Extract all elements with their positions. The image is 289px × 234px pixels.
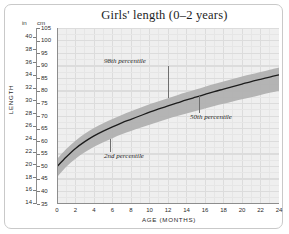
y-tick-inches: 16 <box>18 186 32 192</box>
growth-chart-page: Girls' length (0–2 years) in cm LENGTH A… <box>0 0 289 234</box>
y-tickmark-inches <box>33 139 36 140</box>
y-tick-cm: 105 <box>41 25 55 31</box>
y-tick-cm: 80 <box>41 87 55 93</box>
y-tickmark-inches <box>33 37 36 38</box>
y-tickmark-inches <box>33 88 36 89</box>
y-tickmark-inches <box>33 49 36 50</box>
y-tick-inches: 18 <box>18 174 32 180</box>
x-tick: 0 <box>49 207 65 213</box>
y-tickmark-cm <box>37 141 40 142</box>
y-tickmark-cm <box>37 53 40 54</box>
y-tick-cm: 95 <box>41 50 55 56</box>
y-tickmark-cm <box>37 116 40 117</box>
y-tick-cm: 70 <box>41 113 55 119</box>
y-tick-cm: 45 <box>41 175 55 181</box>
x-tick: 14 <box>179 207 195 213</box>
y-tickmark-inches <box>33 75 36 76</box>
y-tick-cm: 60 <box>41 138 55 144</box>
y-tickmark-cm <box>37 129 40 130</box>
y-tick-cm: 90 <box>41 62 55 68</box>
y-tickmark-inches <box>33 203 36 204</box>
y-tick-cm: 65 <box>41 125 55 131</box>
y-tickmark-cm <box>37 28 40 29</box>
y-tickmark-cm <box>37 78 40 79</box>
y-axis-title: LENGTH <box>7 72 14 128</box>
y-tickmark-inches <box>33 100 36 101</box>
plot-area <box>57 28 279 204</box>
y-tickmark-inches <box>33 113 36 114</box>
y-tickmark-cm <box>37 179 40 180</box>
annotation-2nd-percentile: 2nd percentile <box>104 152 144 160</box>
y-tickmark-cm <box>37 204 40 205</box>
y-tickmark-cm <box>37 154 40 155</box>
y-tick-cm: 40 <box>41 188 55 194</box>
y-tick-inches: 22 <box>18 148 32 154</box>
x-tick: 8 <box>123 207 139 213</box>
y-tick-inches: 30 <box>18 97 32 103</box>
y-tick-inches: 34 <box>18 71 32 77</box>
leader-line-50th <box>199 96 200 113</box>
x-axis-title: AGE (MONTHS) <box>58 216 280 223</box>
y-tickmark-inches <box>33 152 36 153</box>
y-tickmark-cm <box>37 66 40 67</box>
y-tick-inches: 26 <box>18 122 32 128</box>
y-tick-inches: 38 <box>18 46 32 52</box>
y-tickmark-cm <box>37 103 40 104</box>
y-tick-cm: 35 <box>41 201 55 207</box>
y-tickmark-cm <box>37 91 40 92</box>
x-tick: 10 <box>142 207 158 213</box>
y-tickmark-inches <box>33 177 36 178</box>
x-tick: 18 <box>216 207 232 213</box>
leader-line-2nd <box>110 139 111 152</box>
leader-line-98th <box>168 66 169 98</box>
axis-unit-header-inches: in <box>22 19 27 26</box>
x-tick: 2 <box>68 207 84 213</box>
page-title: Girls' length (0–2 years) <box>52 8 277 23</box>
y-tick-cm: 85 <box>41 75 55 81</box>
x-tick: 20 <box>234 207 250 213</box>
y-tickmark-inches <box>33 126 36 127</box>
y-tick-inches: 20 <box>18 161 32 167</box>
x-tick: 22 <box>253 207 269 213</box>
y-tick-cm: 50 <box>41 163 55 169</box>
y-tick-cm: 75 <box>41 100 55 106</box>
annotation-50th-percentile: 50th percentile <box>190 113 232 121</box>
percentile-curves <box>57 28 279 204</box>
y-tick-inches: 36 <box>18 59 32 65</box>
y-tick-cm: 55 <box>41 150 55 156</box>
y-tickmark-inches <box>33 190 36 191</box>
y-tickmark-cm <box>37 191 40 192</box>
y-tickmark-cm <box>37 41 40 42</box>
y-tick-inches: 40 <box>18 33 32 39</box>
y-tick-inches: 14 <box>18 199 32 205</box>
x-tick: 16 <box>197 207 213 213</box>
y-tickmark-inches <box>33 164 36 165</box>
annotation-98th-percentile: 98th percentile <box>104 57 146 65</box>
y-tickmark-cm <box>37 166 40 167</box>
y-tick-inches: 28 <box>18 110 32 116</box>
y-tickmark-inches <box>33 62 36 63</box>
y-tick-cm: 100 <box>41 37 55 43</box>
x-tick: 4 <box>86 207 102 213</box>
x-tick: 12 <box>160 207 176 213</box>
y-tick-inches: 32 <box>18 84 32 90</box>
x-tick: 6 <box>105 207 121 213</box>
y-tick-inches: 24 <box>18 135 32 141</box>
x-tick: 24 <box>271 207 287 213</box>
